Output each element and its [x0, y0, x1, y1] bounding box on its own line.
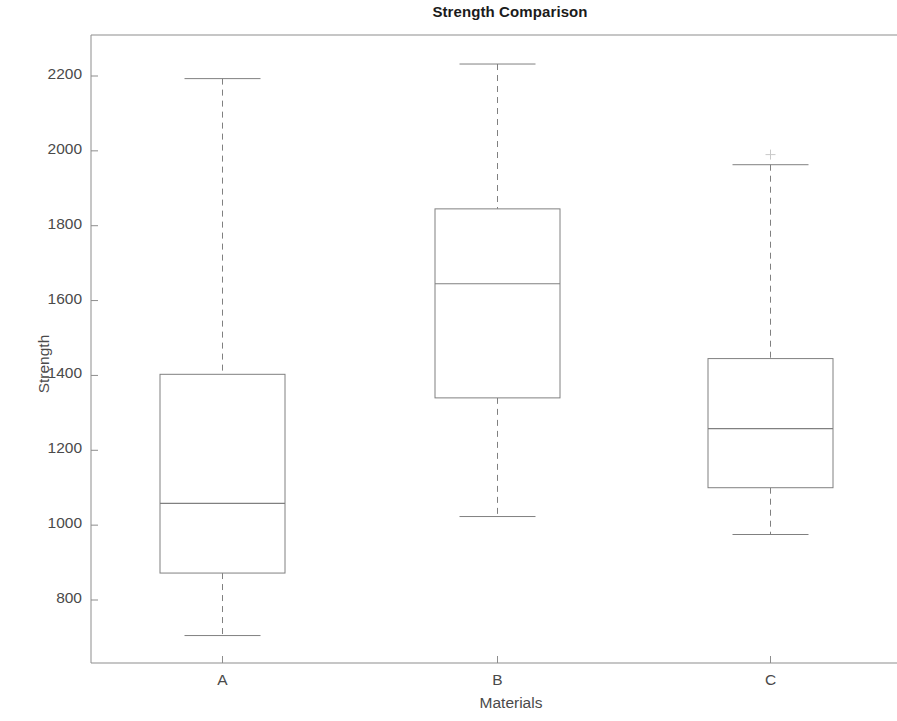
box-a [160, 374, 285, 573]
box-c [708, 359, 833, 488]
outlier-marker [766, 150, 776, 160]
box-plot-area [0, 0, 897, 721]
box-b [435, 209, 560, 398]
figure-canvas: Strength Comparison Strength Materials 8… [0, 0, 897, 721]
